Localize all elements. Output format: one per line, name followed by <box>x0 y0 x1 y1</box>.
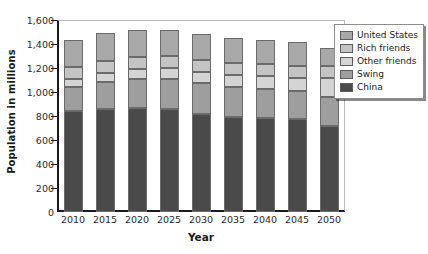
bar-segment <box>64 40 83 68</box>
bar-segment <box>64 111 83 212</box>
y-axis-tick-label: 0 <box>48 207 54 218</box>
bar-column <box>224 20 243 212</box>
x-axis-tick-labels: 201020152020202520302035204020452050 <box>57 214 345 230</box>
x-axis-tick-label: 2035 <box>221 214 245 225</box>
bar-segment <box>64 67 83 78</box>
bar-segment <box>128 30 147 57</box>
bar-segment <box>288 119 307 212</box>
bar-series-layer <box>57 20 345 212</box>
legend-swatch-icon <box>340 31 353 40</box>
bar-segment <box>224 63 243 75</box>
y-axis-tick-label: 1,600 <box>27 15 54 26</box>
y-axis-title: Population in millions <box>6 49 17 174</box>
stacked-bar-chart: Population in millions 02004006008001,00… <box>0 0 428 254</box>
chart-legend: United StatesRich friendsOther friendsSw… <box>334 24 424 99</box>
bar-segment <box>288 42 307 66</box>
y-axis-tick-label: 1,000 <box>27 87 54 98</box>
bar-segment <box>160 56 179 68</box>
bar-segment <box>64 79 83 87</box>
bar-column <box>128 20 147 212</box>
bar-segment <box>64 87 83 111</box>
bar-segment <box>192 114 211 212</box>
legend-swatch-icon <box>340 70 353 79</box>
x-axis-tick-label: 2015 <box>93 214 117 225</box>
bar-segment <box>256 40 275 65</box>
bar-segment <box>96 33 115 61</box>
bar-segment <box>256 118 275 212</box>
bar-segment <box>224 38 243 63</box>
bar-segment <box>256 76 275 89</box>
bar-segment <box>192 83 211 114</box>
bar-segment <box>160 30 179 56</box>
legend-item-label: Rich friends <box>357 44 410 53</box>
bar-column <box>64 20 83 212</box>
bar-segment <box>96 82 115 109</box>
bar-column <box>192 20 211 212</box>
bar-segment <box>320 97 339 125</box>
bar-segment <box>192 34 211 60</box>
legend-swatch-icon <box>340 83 353 92</box>
bar-segment <box>96 109 115 212</box>
x-axis-tick-label: 2020 <box>125 214 149 225</box>
bar-segment <box>96 73 115 82</box>
bar-column <box>160 20 179 212</box>
y-axis-tick-label: 1,200 <box>27 63 54 74</box>
bar-segment <box>96 61 115 73</box>
bar-segment <box>160 109 179 212</box>
x-axis-title: Year <box>57 231 345 243</box>
legend-swatch-icon <box>340 44 353 53</box>
bar-segment <box>256 89 275 118</box>
bar-segment <box>128 69 147 79</box>
bar-segment <box>192 60 211 72</box>
bar-column <box>288 20 307 212</box>
bar-segment <box>160 68 179 79</box>
bar-column <box>96 20 115 212</box>
legend-item: Swing <box>340 68 419 81</box>
legend-item-label: United States <box>357 31 418 40</box>
bar-segment <box>288 91 307 119</box>
legend-swatch-icon <box>340 57 353 66</box>
bar-segment <box>288 66 307 78</box>
x-axis-tick-label: 2025 <box>157 214 181 225</box>
legend-item-label: Other friends <box>357 57 416 66</box>
legend-item-label: China <box>357 83 383 92</box>
bar-segment <box>128 57 147 69</box>
bar-segment <box>160 79 179 109</box>
legend-item-label: Swing <box>357 70 384 79</box>
bar-segment <box>224 87 243 117</box>
bar-segment <box>320 126 339 212</box>
legend-item: China <box>340 81 419 94</box>
y-axis-tick-labels: 02004006008001,0001,2001,4001,600 <box>16 0 54 222</box>
x-axis-tick-label: 2045 <box>285 214 309 225</box>
legend-item: Other friends <box>340 55 419 68</box>
bar-segment <box>128 108 147 212</box>
bar-segment <box>192 72 211 83</box>
bar-segment <box>256 64 275 76</box>
legend-item: United States <box>340 29 419 42</box>
bar-segment <box>224 75 243 87</box>
x-axis-tick-label: 2040 <box>253 214 277 225</box>
legend-item: Rich friends <box>340 42 419 55</box>
bar-segment <box>128 79 147 108</box>
y-axis-tick-label: 1,400 <box>27 39 54 50</box>
bar-column <box>256 20 275 212</box>
x-axis-tick-label: 2030 <box>189 214 213 225</box>
bar-segment <box>288 78 307 91</box>
bar-segment <box>224 117 243 212</box>
x-axis-tick-label: 2010 <box>61 214 85 225</box>
x-axis-tick-label: 2050 <box>317 214 341 225</box>
